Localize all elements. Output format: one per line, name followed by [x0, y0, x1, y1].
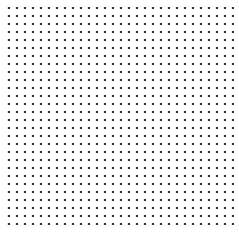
dot-grid-canvas — [0, 0, 239, 247]
dot-grid-pattern — [0, 0, 239, 247]
